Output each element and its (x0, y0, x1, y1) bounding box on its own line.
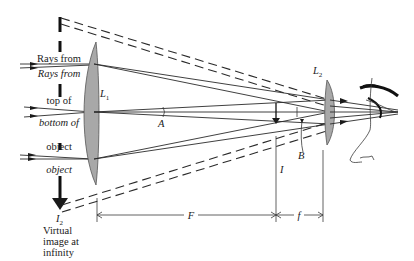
rays-between-lenses (94, 64, 330, 159)
label-rays-top-2: top of (47, 95, 72, 106)
lens-l1 (84, 42, 99, 185)
dashed-line-bottom-1 (62, 122, 330, 205)
label-rays-top-3: object (46, 141, 72, 152)
lens-l2 (325, 80, 335, 145)
diagram-canvas: Rays from Rays from top of bottom of obj… (0, 0, 414, 261)
rays-to-eye (330, 98, 398, 125)
label-angle-a: A (157, 118, 165, 129)
label-rays-bottom-1: Rays from (37, 68, 81, 79)
label-focal-long: F (187, 210, 195, 221)
incoming-rays-bottom (20, 153, 92, 161)
dimension-f-long (97, 212, 276, 218)
optics-diagram: Rays from Rays from top of bottom of obj… (0, 0, 414, 261)
label-focal-short: f (298, 210, 303, 221)
label-lens-l2: L2 (312, 65, 323, 79)
dashed-line-bottom-2 (62, 130, 330, 212)
label-rays-top-1: Rays from (37, 53, 81, 64)
label-virtual-2: image at (43, 236, 79, 247)
angle-b-pointer (301, 120, 303, 152)
label-angle-b: B (298, 150, 305, 161)
label-rays-bottom-2: bottom of (39, 117, 81, 128)
label-intermediate-image: I (279, 164, 284, 175)
label-lens-l1: L1 (99, 88, 110, 102)
label-virtual-3: infinity (43, 247, 75, 258)
label-rays-bottom-3: object (46, 164, 73, 175)
label-virtual-1: Virtual (43, 225, 72, 236)
